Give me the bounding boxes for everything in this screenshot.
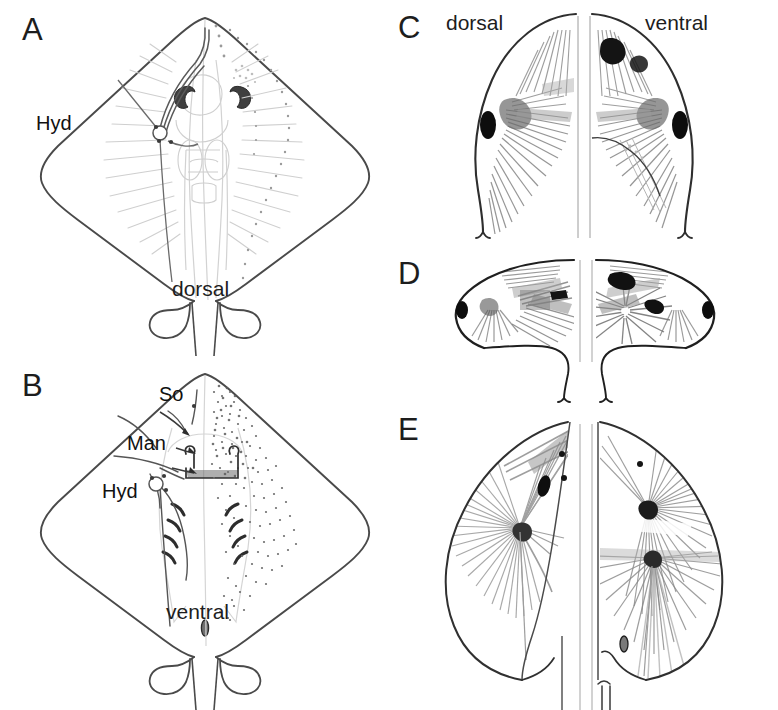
so-dot xyxy=(192,404,196,408)
panel-a: A xyxy=(0,0,392,356)
cloaca-e-right xyxy=(620,636,628,652)
label-dorsal-panel-a: dorsal xyxy=(172,278,229,299)
specimen-d-left-tail xyxy=(484,346,570,402)
panel-e-specimen xyxy=(392,406,778,710)
nerve-leader-lines xyxy=(114,390,197,626)
panel-c: C dorsal ventral xyxy=(392,0,778,248)
specimen-c-left-tailtip xyxy=(476,232,490,238)
panel-c-specimen xyxy=(392,0,778,248)
hyd-dot-mid xyxy=(162,474,166,478)
hyd-dot-branch xyxy=(169,140,173,144)
hyd-leader-lower xyxy=(160,140,172,282)
panel-d: D xyxy=(392,248,778,406)
spiracle-right xyxy=(230,86,251,108)
eye-spot-d-right xyxy=(702,301,714,319)
label-hyd-panel-b: Hyd xyxy=(102,481,138,501)
pelvic-fin-left xyxy=(150,301,194,338)
hyd-dot-lower xyxy=(157,139,161,143)
figure-plate: A xyxy=(0,0,778,710)
hyd-dot-upper xyxy=(154,125,158,129)
panel-e: E xyxy=(392,406,778,710)
tail-line-left xyxy=(192,659,196,710)
label-so-panel-b: So xyxy=(159,384,183,404)
hyoid-nerve-branches xyxy=(160,28,209,132)
dark-dot-e-left-lateral xyxy=(561,475,567,481)
eye-spot-left xyxy=(480,111,496,139)
tail-line-right xyxy=(214,303,218,356)
hyd-dot-lower xyxy=(164,488,168,492)
specimen-e-right-tail-notch xyxy=(598,681,610,710)
panel-b: B xyxy=(0,356,392,710)
pelvic-fin-left xyxy=(150,657,194,694)
eye-spot-right xyxy=(672,111,688,139)
ampullary-pore-stipple xyxy=(211,391,297,621)
specimen-c-right-tailtip xyxy=(678,232,692,238)
dark-dot-e-left-upper xyxy=(559,451,565,457)
dark-dot-e-right xyxy=(637,461,643,467)
panel-d-letter: D xyxy=(398,258,420,289)
gill-slits-left xyxy=(163,504,184,563)
specimen-e-left-pelvic xyxy=(522,658,554,680)
pelvic-fin-right xyxy=(216,301,260,338)
panel-d-specimen xyxy=(392,248,778,406)
hyd-leader-upper xyxy=(118,80,156,127)
specimen-e-left-fibers xyxy=(448,424,578,660)
tail-line-left xyxy=(192,303,196,356)
label-ventral-panel-c: ventral xyxy=(645,12,708,33)
tail-line-right xyxy=(214,659,218,710)
label-ventral-panel-b: ventral xyxy=(166,601,229,622)
label-man-panel-b: Man xyxy=(127,433,166,453)
specimen-c-right-inner-arc xyxy=(592,138,660,196)
specimen-e-right-fibers xyxy=(598,436,722,678)
panel-e-letter: E xyxy=(398,414,419,445)
gill-slits-right xyxy=(226,504,247,563)
eye-spot-d-left xyxy=(456,301,468,319)
hyd-dot-upper xyxy=(150,476,154,480)
pectoral-radials-left xyxy=(104,44,180,254)
panel-b-letter: B xyxy=(22,370,43,401)
panel-a-drawing xyxy=(0,0,392,356)
pelvic-fin-right xyxy=(216,657,260,694)
label-dorsal-panel-c: dorsal xyxy=(446,12,503,33)
panel-a-letter: A xyxy=(22,14,43,45)
panel-b-drawing xyxy=(0,356,392,710)
specimen-d-right-tail xyxy=(600,346,686,402)
internal-axis-faint xyxy=(185,20,228,300)
panel-c-letter: C xyxy=(398,12,420,43)
label-hyd-panel-a: Hyd xyxy=(36,113,72,133)
